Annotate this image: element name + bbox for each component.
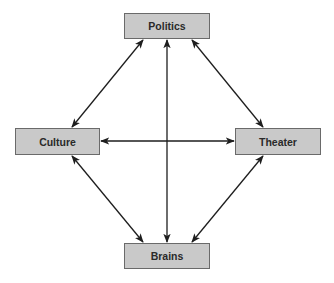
edge-politics-theater	[192, 40, 263, 127]
node-politics: Politics	[124, 13, 210, 39]
node-brains: Brains	[124, 243, 210, 269]
node-theater: Theater	[235, 128, 321, 155]
edge-politics-culture	[72, 40, 143, 127]
edge-theater-brains	[192, 156, 263, 242]
node-culture: Culture	[15, 128, 100, 155]
node-politics-label: Politics	[148, 20, 185, 32]
node-brains-label: Brains	[151, 250, 184, 262]
edge-culture-brains	[72, 156, 143, 242]
node-culture-label: Culture	[39, 136, 76, 148]
node-theater-label: Theater	[259, 136, 297, 148]
